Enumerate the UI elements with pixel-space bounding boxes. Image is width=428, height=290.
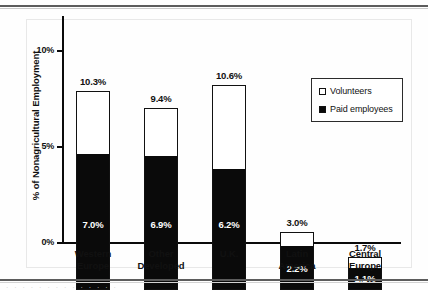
x-category-label-central-europe: Central Europe (322, 248, 408, 271)
bar-paid-label: 7.0% (76, 219, 110, 230)
bar-total-label: 10.3% (76, 76, 110, 87)
y-tick-10 (57, 50, 63, 52)
bar-total-label: 3.0% (280, 217, 314, 228)
cat-line-2: Europe (322, 260, 408, 272)
cat-line-2: Developed (118, 260, 204, 272)
y-tick-label-10: 10% (14, 45, 54, 55)
bar-total-label: 10.6% (212, 70, 246, 81)
bottom-rule-shadow (0, 282, 428, 283)
chart-legend: Volunteers Paid employees (311, 78, 403, 122)
bar-paid-label: 6.2% (212, 219, 246, 230)
bar-total-label: 9.4% (144, 93, 178, 104)
bottom-rule (0, 279, 428, 281)
cat-line-1: Central (322, 248, 408, 260)
filled-square-icon (319, 106, 326, 113)
open-square-icon (319, 88, 326, 95)
legend-item-label: Paid employees (330, 104, 393, 114)
y-tick-label-0: 0% (14, 237, 54, 247)
legend-item-volunteers[interactable]: Volunteers (319, 86, 372, 96)
y-tick-0 (57, 242, 63, 244)
caption-remnant: · · · · · · · · · · · · · · (6, 284, 422, 290)
y-tick-label-5: 5% (14, 141, 54, 151)
stacked-bar-chart: % of Nonagricultural Employment 10% 5% 0… (0, 0, 428, 290)
y-tick-5 (57, 146, 63, 148)
legend-item-paid-employees[interactable]: Paid employees (319, 104, 393, 114)
bar-paid-label: 6.9% (144, 219, 178, 230)
legend-item-label: Volunteers (330, 86, 372, 96)
figure-page: % of Nonagricultural Employment 10% 5% 0… (0, 0, 428, 290)
